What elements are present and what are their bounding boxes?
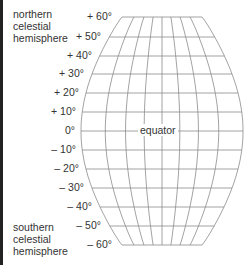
declination-label: + 20°	[19, 86, 79, 98]
declination-label: 0°	[15, 124, 75, 136]
declination-label: + 60°	[52, 10, 112, 22]
equator-label: equator	[138, 124, 178, 136]
declination-label: + 40°	[32, 49, 92, 61]
declination-label: – 30°	[24, 181, 84, 193]
declination-label: + 50°	[41, 30, 101, 42]
declination-label: + 30°	[24, 67, 84, 79]
declination-label: – 20°	[19, 162, 79, 174]
declination-label: – 40°	[32, 200, 92, 212]
declination-label: – 50°	[41, 219, 101, 231]
declination-label: + 10°	[16, 105, 76, 117]
declination-label: – 60°	[52, 238, 112, 250]
declination-label: – 10°	[16, 143, 76, 155]
